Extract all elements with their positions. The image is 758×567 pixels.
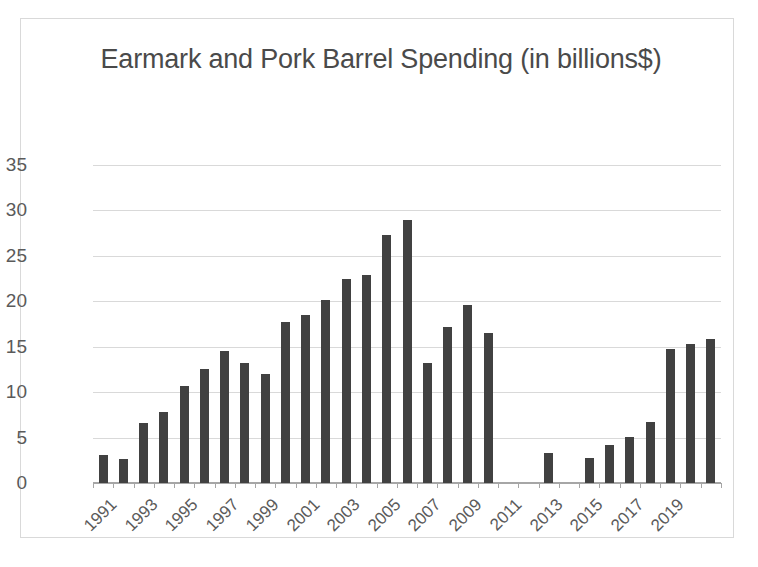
- x-axis-tick-label: 2013: [519, 495, 567, 543]
- x-axis-tick: [579, 483, 580, 488]
- bar: [686, 344, 695, 483]
- x-axis-tick-label: 2015: [559, 495, 607, 543]
- x-axis-tick: [215, 483, 216, 488]
- x-axis-tick-label: 2003: [316, 495, 364, 543]
- x-axis-tick: [134, 483, 135, 488]
- x-axis-tick: [660, 483, 661, 488]
- bar: [625, 437, 634, 483]
- bar: [99, 455, 108, 483]
- bar: [301, 315, 310, 483]
- gridline: [93, 165, 721, 166]
- y-axis-tick-label: 10: [0, 381, 27, 403]
- x-axis-tick: [174, 483, 175, 488]
- bar: [200, 369, 209, 483]
- bar: [342, 279, 351, 483]
- x-axis-tick-label: 2017: [600, 495, 648, 543]
- bar: [585, 458, 594, 483]
- bar: [463, 305, 472, 483]
- x-axis-tick: [275, 483, 276, 488]
- x-axis-tick: [377, 483, 378, 488]
- bar: [706, 339, 715, 483]
- x-axis-tick-label: 1997: [195, 495, 243, 543]
- bar: [382, 235, 391, 483]
- bar: [443, 327, 452, 483]
- plot-area: [93, 165, 721, 483]
- x-axis-tick: [539, 483, 540, 488]
- x-axis-tick: [721, 483, 722, 488]
- chart-title: Earmark and Pork Barrel Spending (in bil…: [81, 41, 681, 77]
- x-axis-tick: [620, 483, 621, 488]
- y-axis-tick-label: 20: [0, 290, 27, 312]
- x-axis-tick: [194, 483, 195, 488]
- bar: [281, 322, 290, 483]
- x-axis-tick: [478, 483, 479, 488]
- x-axis-tick-label: 1999: [235, 495, 283, 543]
- x-axis-tick: [640, 483, 641, 488]
- bar: [403, 220, 412, 483]
- bar: [240, 363, 249, 483]
- x-axis-tick: [336, 483, 337, 488]
- chart-container: Earmark and Pork Barrel Spending (in bil…: [20, 18, 734, 538]
- x-axis-tick: [154, 483, 155, 488]
- x-axis-tick: [701, 483, 702, 488]
- x-axis-tick: [437, 483, 438, 488]
- bar: [119, 459, 128, 483]
- x-axis-tick-label: 2005: [357, 495, 405, 543]
- bar: [605, 445, 614, 483]
- bar: [666, 349, 675, 483]
- x-axis-tick: [458, 483, 459, 488]
- gridline: [93, 210, 721, 211]
- x-axis-tick: [113, 483, 114, 488]
- x-axis-tick: [397, 483, 398, 488]
- bar: [261, 374, 270, 483]
- x-axis-tick: [599, 483, 600, 488]
- y-axis-tick-label: 0: [0, 472, 27, 494]
- bar: [423, 363, 432, 483]
- bar: [544, 453, 553, 483]
- gridline: [93, 483, 721, 484]
- x-axis-tick-label: 1991: [73, 495, 121, 543]
- x-axis-tick: [316, 483, 317, 488]
- x-axis-tick: [235, 483, 236, 488]
- bar: [180, 386, 189, 483]
- x-axis-tick-label: 2001: [276, 495, 324, 543]
- bar: [646, 422, 655, 483]
- bar: [220, 351, 229, 483]
- x-axis-tick-label: 1995: [154, 495, 202, 543]
- x-axis-tick: [559, 483, 560, 488]
- bar: [159, 412, 168, 483]
- x-axis-tick-label: 2009: [438, 495, 486, 543]
- y-axis-tick-label: 30: [0, 199, 27, 221]
- x-axis-tick: [680, 483, 681, 488]
- bar: [484, 333, 493, 483]
- y-axis-tick-label: 35: [0, 154, 27, 176]
- bar: [321, 300, 330, 483]
- x-axis-tick: [93, 483, 94, 488]
- bar: [139, 423, 148, 483]
- x-axis-tick: [356, 483, 357, 488]
- x-axis-tick: [417, 483, 418, 488]
- x-axis-tick-label: 2007: [397, 495, 445, 543]
- x-axis-tick-label: 2011: [478, 495, 526, 543]
- x-axis-tick: [498, 483, 499, 488]
- y-axis-tick-label: 25: [0, 245, 27, 267]
- x-axis-tick: [296, 483, 297, 488]
- x-axis-tick: [255, 483, 256, 488]
- y-axis-tick-label: 15: [0, 336, 27, 358]
- bar: [362, 275, 371, 483]
- y-axis-tick-label: 5: [0, 427, 27, 449]
- x-axis-tick-label: 2019: [640, 495, 688, 543]
- x-axis-tick: [518, 483, 519, 488]
- x-axis-tick-label: 1993: [114, 495, 162, 543]
